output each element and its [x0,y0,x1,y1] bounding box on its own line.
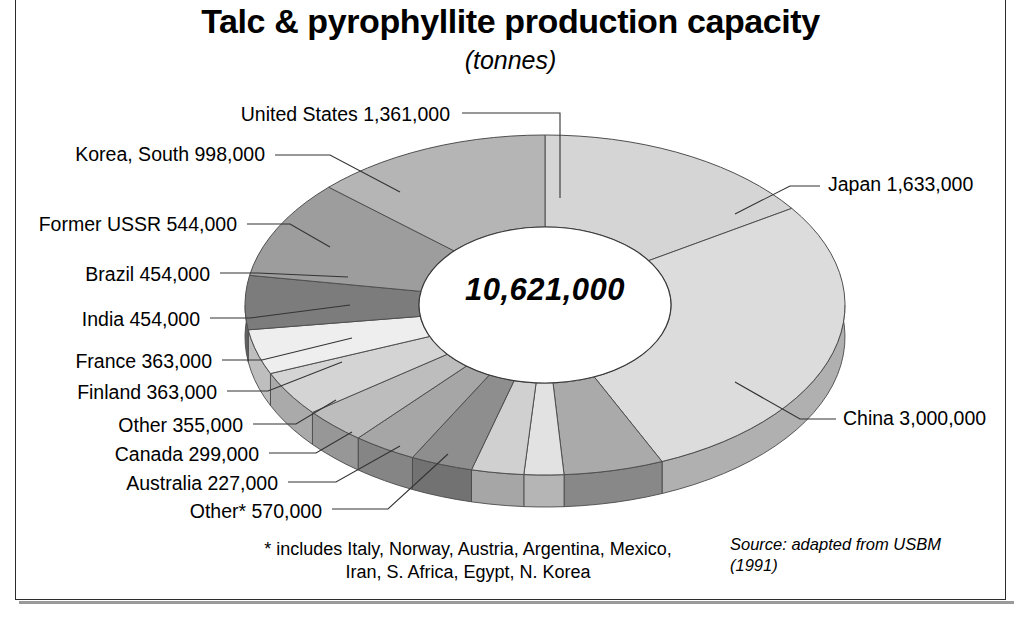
footnote: * includes Italy, Norway, Austria, Argen… [258,538,678,584]
label-other: Other 355,000 [0,414,243,436]
donut-wall-segment [524,475,564,507]
label-india: India 454,000 [0,308,200,330]
label-france: France 363,000 [0,350,212,372]
label-korea-south: Korea, South 998,000 [0,143,265,165]
label-other-star: Other* 570,000 [0,500,322,522]
label-former-ussr: Former USSR 544,000 [0,213,237,235]
label-finland: Finland 363,000 [0,381,217,403]
label-china: China 3,000,000 [843,407,986,429]
center-total-value: 10,621,000 [395,272,695,308]
source-note: Source: adapted from USBM (1991) [730,534,970,576]
donut-wall-segment [471,470,523,507]
label-brazil: Brazil 454,000 [0,263,210,285]
label-united-states: United States 1,361,000 [60,103,450,125]
label-australia: Australia 227,000 [0,472,278,494]
label-canada: Canada 299,000 [0,443,259,465]
label-japan: Japan 1,633,000 [828,173,973,195]
